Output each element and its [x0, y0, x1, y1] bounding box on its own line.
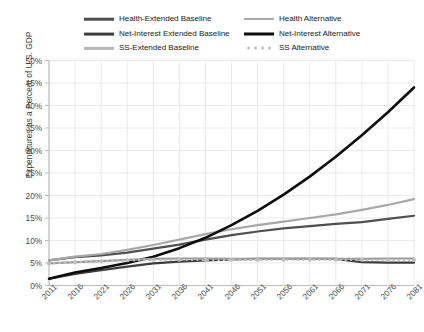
series-marker	[256, 258, 260, 262]
series-marker	[412, 258, 416, 262]
series-marker	[386, 258, 390, 262]
series-marker	[308, 258, 312, 262]
series-marker	[177, 258, 181, 262]
series-marker	[230, 258, 234, 262]
series-marker	[125, 258, 129, 262]
series-marker	[203, 258, 207, 262]
series-marker	[282, 258, 286, 262]
series-marker	[99, 259, 103, 263]
series-marker	[151, 258, 155, 262]
series-marker	[334, 258, 338, 262]
series-marker	[47, 261, 51, 265]
series-marker	[360, 258, 364, 262]
series-marker	[73, 260, 77, 264]
x-axis-ticks: 2011201620212026203120362041204620512056…	[0, 289, 422, 332]
